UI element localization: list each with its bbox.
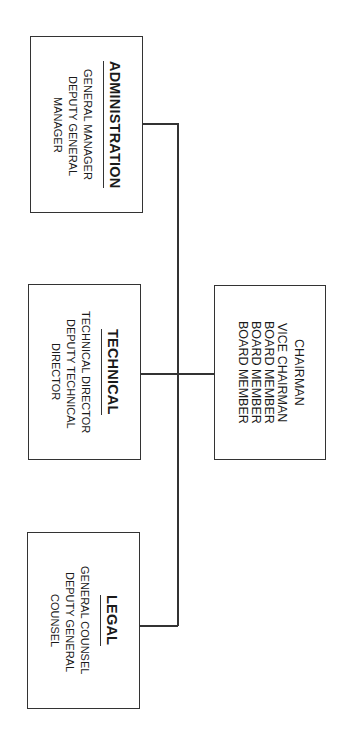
role-line: MANAGER bbox=[50, 97, 65, 153]
role-line: COUNSEL bbox=[47, 594, 62, 647]
role-line: DIRECTOR bbox=[48, 343, 63, 400]
department-title: ADMINISTRATION bbox=[103, 61, 124, 188]
role-line: DEPUTY GENERAL bbox=[62, 572, 77, 672]
board-role-chairman: CHAIRMAN bbox=[292, 339, 305, 406]
department-title: LEGAL bbox=[100, 595, 121, 645]
board-role-member: BOARD MEMBER bbox=[262, 321, 275, 424]
role-line: GENERAL MANAGER bbox=[80, 69, 95, 180]
department-box-technical: TECHNICAL TECHNICAL DIRECTOR DEPUTY TECH… bbox=[28, 284, 141, 460]
connector-technical-to-board bbox=[140, 373, 214, 375]
board-role-member: BOARD MEMBER bbox=[249, 321, 262, 424]
department-box-administration: ADMINISTRATION GENERAL MANAGER DEPUTY GE… bbox=[30, 36, 143, 213]
connector-legal bbox=[140, 625, 178, 627]
role-line: DEPUTY GENERAL bbox=[65, 76, 80, 176]
connector-trunk-vertical bbox=[177, 123, 179, 626]
department-box-legal: LEGAL GENERAL COUNSEL DEPUTY GENERAL COU… bbox=[27, 532, 140, 709]
role-line: DEPUTY TECHNICAL bbox=[63, 319, 78, 429]
board-box: CHAIRMAN VICE CHAIRMAN BOARD MEMBER BOAR… bbox=[214, 285, 326, 460]
role-line: GENERAL COUNSEL bbox=[77, 566, 92, 674]
department-title: TECHNICAL bbox=[101, 329, 122, 415]
board-role-vice-chairman: VICE CHAIRMAN bbox=[275, 323, 288, 422]
board-role-member: BOARD MEMBER bbox=[236, 321, 249, 424]
role-line: TECHNICAL DIRECTOR bbox=[78, 311, 93, 433]
connector-administration bbox=[142, 123, 178, 125]
